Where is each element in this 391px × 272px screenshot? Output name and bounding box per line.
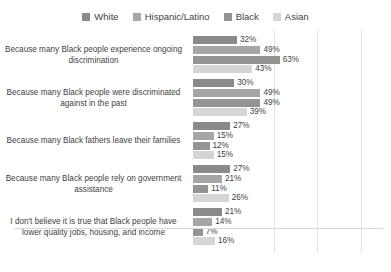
legend-label: Asian bbox=[285, 12, 309, 22]
bar-row: 16% bbox=[193, 237, 234, 245]
bar-value-label: 32% bbox=[240, 36, 256, 44]
bar[interactable] bbox=[193, 165, 230, 173]
bar-row: 49% bbox=[193, 99, 280, 107]
bar-value-label: 21% bbox=[225, 175, 241, 183]
legend-item-hispanic-latino[interactable]: Hispanic/Latino bbox=[133, 12, 210, 22]
category-label: Because many Black fathers leave their f… bbox=[0, 136, 193, 147]
bar[interactable] bbox=[193, 185, 208, 193]
bar[interactable] bbox=[193, 108, 247, 116]
bar[interactable] bbox=[193, 194, 229, 202]
bar-row: 12% bbox=[193, 142, 229, 150]
bar-value-label: 27% bbox=[233, 122, 249, 130]
legend-item-white[interactable]: White bbox=[82, 12, 118, 22]
bar-value-label: 49% bbox=[263, 99, 279, 107]
bar[interactable] bbox=[193, 142, 210, 150]
bar-value-label: 15% bbox=[217, 151, 233, 159]
legend-item-asian[interactable]: Asian bbox=[273, 12, 309, 22]
bar-row: 15% bbox=[193, 151, 233, 159]
bar-group: Because many Black fathers leave their f… bbox=[0, 120, 391, 163]
bar-row: 21% bbox=[193, 208, 241, 216]
category-label: Because many Black people rely on govern… bbox=[0, 174, 193, 195]
bar[interactable] bbox=[193, 65, 252, 73]
bar[interactable] bbox=[193, 175, 222, 183]
bar-value-label: 26% bbox=[232, 194, 248, 202]
legend-swatch-icon bbox=[82, 13, 90, 21]
bar[interactable] bbox=[193, 99, 260, 107]
legend-label: Hispanic/Latino bbox=[145, 12, 210, 22]
bar-value-label: 12% bbox=[213, 142, 229, 150]
bar[interactable] bbox=[193, 56, 280, 64]
bar-row: 27% bbox=[193, 122, 250, 130]
bar-row: 27% bbox=[193, 165, 250, 173]
legend-swatch-icon bbox=[133, 13, 141, 21]
legend-swatch-icon bbox=[273, 13, 281, 21]
legend-label: White bbox=[94, 12, 118, 22]
bar-value-label: 27% bbox=[233, 165, 249, 173]
bar-value-label: 21% bbox=[225, 208, 241, 216]
bar-row: 21% bbox=[193, 175, 241, 183]
bar-row: 49% bbox=[193, 89, 280, 97]
category-label: Because many Black people were discrimin… bbox=[0, 88, 193, 109]
bar-row: 32% bbox=[193, 36, 256, 44]
bar[interactable] bbox=[193, 36, 237, 44]
bar-row: 11% bbox=[193, 185, 227, 193]
bar-row: 26% bbox=[193, 194, 248, 202]
bar[interactable] bbox=[193, 79, 234, 87]
bar-row: 14% bbox=[193, 218, 232, 226]
bar-group: Because many Black people were discrimin… bbox=[0, 77, 391, 120]
bar[interactable] bbox=[193, 151, 214, 159]
bar-value-label: 49% bbox=[263, 89, 279, 97]
bar[interactable] bbox=[193, 208, 222, 216]
bar-value-label: 39% bbox=[250, 108, 266, 116]
bar[interactable] bbox=[193, 132, 214, 140]
bar[interactable] bbox=[193, 46, 260, 54]
legend-swatch-icon bbox=[224, 13, 232, 21]
bar-groups: Because many Black people experience ong… bbox=[0, 30, 391, 252]
grouped-bar-chart: WhiteHispanic/LatinoBlackAsian Because m… bbox=[0, 0, 391, 272]
bar-stack: 27%21%11%26% bbox=[193, 163, 391, 206]
bar-stack: 30%49%49%39% bbox=[193, 77, 391, 120]
bar-row: 30% bbox=[193, 79, 254, 87]
bar-value-label: 63% bbox=[283, 56, 299, 64]
chart-legend: WhiteHispanic/LatinoBlackAsian bbox=[0, 12, 391, 22]
bar-stack: 32%49%63%43% bbox=[193, 34, 391, 77]
bar-row: 43% bbox=[193, 65, 272, 73]
axis-baseline bbox=[14, 228, 383, 229]
bar[interactable] bbox=[193, 89, 260, 97]
legend-label: Black bbox=[236, 12, 259, 22]
bar-row: 63% bbox=[193, 56, 299, 64]
bar[interactable] bbox=[193, 218, 212, 226]
bar-value-label: 15% bbox=[217, 132, 233, 140]
bar-value-label: 11% bbox=[211, 185, 227, 193]
bar-row: 49% bbox=[193, 46, 280, 54]
bar-value-label: 14% bbox=[215, 218, 231, 226]
legend-item-black[interactable]: Black bbox=[224, 12, 259, 22]
bar-value-label: 49% bbox=[263, 46, 279, 54]
bar-row: 15% bbox=[193, 132, 233, 140]
bar-stack: 27%15%12%15% bbox=[193, 120, 391, 163]
bar-value-label: 30% bbox=[237, 79, 253, 87]
bar[interactable] bbox=[193, 237, 215, 245]
bar-value-label: 43% bbox=[255, 65, 271, 73]
bar-row: 39% bbox=[193, 108, 266, 116]
bar-group: Because many Black people rely on govern… bbox=[0, 163, 391, 206]
bar[interactable] bbox=[193, 122, 230, 130]
category-label: Because many Black people experience ong… bbox=[0, 45, 193, 66]
plot-area: Because many Black people experience ong… bbox=[0, 30, 391, 252]
bar-group: Because many Black people experience ong… bbox=[0, 34, 391, 77]
bar-value-label: 16% bbox=[218, 237, 234, 245]
